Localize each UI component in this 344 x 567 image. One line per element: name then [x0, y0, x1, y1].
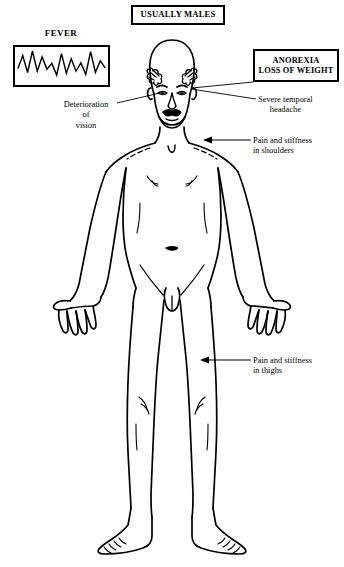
headache-line2: headache [258, 105, 313, 115]
thighs-line1: Pain and stiffness [253, 356, 312, 366]
usually-males-label: USUALLY MALES [141, 10, 216, 20]
shoulders-line2: in shoulders [253, 146, 312, 156]
annotation-pain-stiffness-shoulders: Pain and stiffness in shoulders [253, 136, 312, 157]
symptom-diagram: USUALLY MALES FEVER ANOREXIA LOSS OF WEI… [0, 0, 344, 567]
anorexia-line1: ANOREXIA [259, 56, 334, 65]
annotation-pain-stiffness-thighs: Pain and stiffness in thighs [253, 356, 312, 377]
leader-line-anorexia [192, 82, 253, 88]
fever-waveform [15, 47, 108, 85]
vision-line1: Deterioration [55, 100, 117, 110]
leader-line-vision [117, 93, 160, 103]
vision-line2: of [55, 110, 117, 120]
headache-line1: Severe temporal [258, 95, 313, 105]
anorexia-box: ANOREXIA LOSS OF WEIGHT [253, 49, 339, 82]
shoulders-line1: Pain and stiffness [253, 136, 312, 146]
annotation-severe-temporal-headache: Severe temporal headache [258, 95, 313, 116]
leader-arrow-shoulders [203, 137, 251, 144]
leader-line-headache [191, 89, 256, 99]
usually-males-box: USUALLY MALES [131, 5, 225, 25]
anorexia-line2: LOSS OF WEIGHT [259, 66, 334, 75]
annotation-deterioration-of-vision: Deterioration of vision [55, 100, 117, 131]
leader-arrow-thighs [200, 357, 251, 364]
vision-line3: vision [55, 121, 117, 131]
thighs-line2: in thighs [253, 366, 312, 376]
fever-chart [13, 45, 110, 87]
fever-title: FEVER [13, 28, 109, 38]
